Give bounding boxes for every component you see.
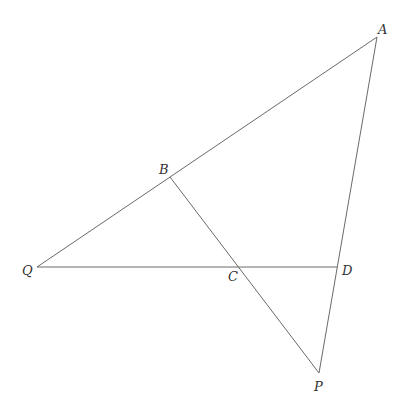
label-Q: Q <box>22 263 33 278</box>
segment-QA <box>37 37 377 267</box>
label-P: P <box>313 379 323 394</box>
segments <box>37 37 377 373</box>
label-D: D <box>341 263 353 278</box>
geometry-diagram: A B Q C D P <box>0 0 405 416</box>
point-labels: A B Q C D P <box>22 22 387 394</box>
label-A: A <box>377 22 387 37</box>
label-C: C <box>228 269 238 284</box>
segment-BP <box>170 177 319 373</box>
label-B: B <box>158 162 169 177</box>
segment-AP <box>319 37 377 373</box>
